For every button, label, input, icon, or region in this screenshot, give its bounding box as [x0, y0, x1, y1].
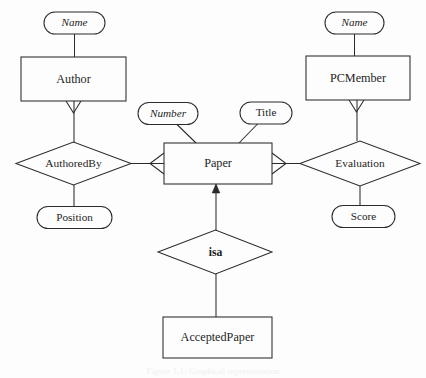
attribute-author-name[interactable]: Name	[44, 12, 105, 34]
edge-number-to-paper	[176, 124, 196, 144]
attribute-paper-number[interactable]: Number	[138, 103, 198, 125]
attribute-position-label: Position	[56, 211, 93, 223]
attribute-author-name-label: Name	[60, 16, 87, 28]
attribute-score-label: Score	[351, 210, 377, 222]
edge-title-to-paper	[239, 124, 258, 144]
relationship-evaluation-label: Evaluation	[335, 157, 385, 169]
entity-author[interactable]: Author	[21, 57, 126, 101]
entity-paper[interactable]: Paper	[164, 143, 272, 184]
relationship-isa[interactable]: isa	[158, 230, 272, 274]
entity-acceptedpaper[interactable]: AcceptedPaper	[163, 317, 272, 358]
attribute-pcmember-name[interactable]: Name	[325, 12, 384, 34]
relationship-authoredby-label: AuthoredBy	[45, 157, 102, 169]
attribute-paper-number-label: Number	[149, 107, 187, 119]
entity-author-label: Author	[56, 72, 91, 86]
attribute-paper-title[interactable]: Title	[240, 102, 292, 124]
entity-paper-label: Paper	[204, 156, 232, 170]
er-diagram-canvas: Author PCMember Paper AcceptedPaper Auth…	[0, 0, 426, 378]
entity-pcmember[interactable]: PCMember	[306, 56, 410, 100]
attribute-paper-title-label: Title	[256, 106, 277, 118]
attribute-pcmember-name-label: Name	[340, 16, 367, 28]
relationship-authoredby[interactable]: AuthoredBy	[16, 142, 131, 185]
entity-acceptedpaper-label: AcceptedPaper	[181, 330, 255, 344]
figure-caption: Figure 1.1: Graphical representation	[0, 366, 426, 376]
attribute-score[interactable]: Score	[332, 206, 395, 228]
relationship-isa-label: isa	[209, 246, 223, 259]
er-diagram-svg: Author PCMember Paper AcceptedPaper Auth…	[0, 0, 426, 378]
entity-pcmember-label: PCMember	[330, 71, 386, 85]
arrowhead-isa-up-icon	[212, 184, 220, 193]
attribute-position[interactable]: Position	[37, 207, 112, 229]
relationship-evaluation[interactable]: Evaluation	[300, 141, 420, 186]
